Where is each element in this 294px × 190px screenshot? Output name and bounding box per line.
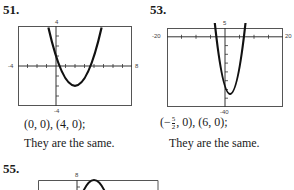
- ymax-label-51: 4: [55, 19, 58, 25]
- fraction-five-halves: 52: [172, 116, 176, 131]
- xmax-label-51: 8: [135, 63, 138, 69]
- xmin-label-51: -4: [8, 63, 13, 69]
- answer-53: (−52, 0), (6, 0);: [160, 115, 228, 131]
- answer-51: (0, 0), (4, 0);: [24, 117, 85, 132]
- graph-51: [18, 26, 132, 106]
- conclusion-51: They are the same.: [24, 136, 115, 151]
- answer-53-prefix: (−: [160, 115, 171, 129]
- conclusion-53: They are the same.: [169, 136, 260, 151]
- answer-53-suffix: , 0), (6, 0);: [176, 115, 227, 129]
- graph-55: [38, 180, 158, 190]
- graph-53: [167, 28, 283, 107]
- problem-number-53: 53.: [150, 2, 166, 18]
- ymax-label-55: 8: [75, 172, 78, 178]
- problem-number-51: 51.: [3, 2, 19, 18]
- xmin-label-53: -20: [152, 33, 161, 39]
- xmax-label-53: 20: [285, 33, 292, 39]
- problem-number-55: 55.: [3, 161, 19, 177]
- ymin-label-51: -4: [54, 108, 59, 114]
- ymax-label-53: 5: [223, 20, 226, 26]
